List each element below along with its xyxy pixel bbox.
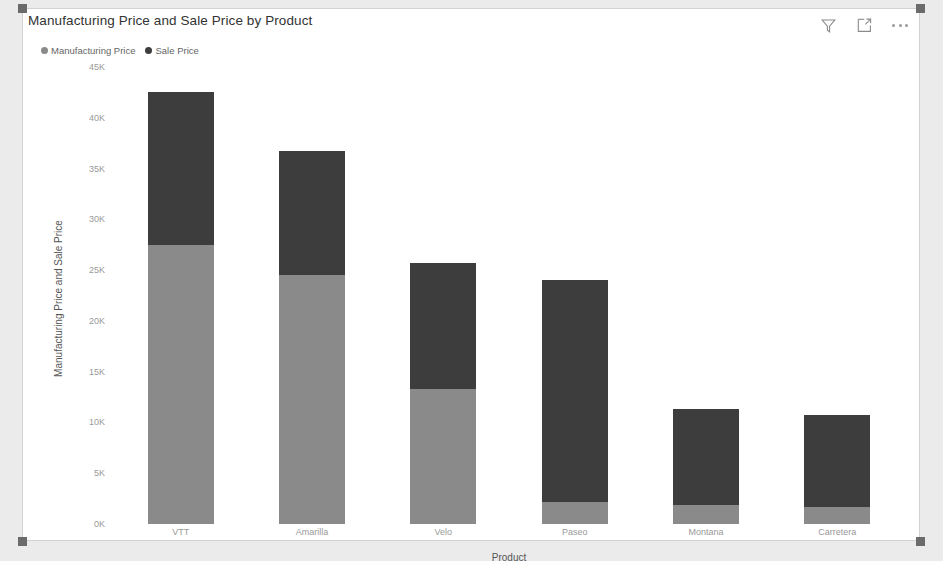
visual-title: Manufacturing Price and Sale Price by Pr… (28, 13, 312, 28)
bar-slot (772, 67, 903, 524)
x-axis-tick-label: Montana (688, 527, 723, 537)
bar-segment[interactable] (279, 151, 345, 275)
y-axis-tick-label: 30K (89, 214, 105, 224)
legend-swatch-manufacturing-price (41, 47, 48, 54)
legend-label-manufacturing-price: Manufacturing Price (51, 45, 135, 56)
legend-label-sale-price: Sale Price (155, 45, 198, 56)
column-montana[interactable] (673, 409, 739, 524)
column-vtt[interactable] (148, 92, 214, 524)
chart-legend: Manufacturing Price Sale Price (41, 45, 199, 56)
more-options-icon[interactable] (889, 14, 911, 36)
bar-segment[interactable] (673, 505, 739, 524)
legend-item-manufacturing-price[interactable]: Manufacturing Price (41, 45, 135, 56)
bar-segment[interactable] (410, 263, 476, 389)
y-axis-tick-label: 25K (89, 265, 105, 275)
stacked-column-chart-visual[interactable]: Manufacturing Price and Sale Price by Pr… (22, 8, 920, 541)
x-axis-tick-label: Paseo (562, 527, 588, 537)
resize-handle-top-right[interactable] (916, 4, 925, 13)
bar-segment[interactable] (410, 389, 476, 524)
column-carretera[interactable] (804, 415, 870, 524)
y-axis-tick-label: 20K (89, 316, 105, 326)
bar-segment[interactable] (542, 280, 608, 501)
resize-handle-top-left[interactable] (18, 4, 27, 13)
y-axis-tick-label: 15K (89, 367, 105, 377)
column-amarilla[interactable] (279, 151, 345, 524)
column-velo[interactable] (410, 263, 476, 524)
bar-slot (509, 67, 640, 524)
resize-handle-bottom-left[interactable] (18, 537, 27, 546)
bars-container (115, 67, 903, 524)
focus-mode-icon[interactable] (853, 14, 875, 36)
x-axis-tick-label: Amarilla (296, 527, 329, 537)
x-axis-tick-label: Carretera (818, 527, 856, 537)
y-axis-tick-label: 40K (89, 113, 105, 123)
x-axis-tick-label: Velo (435, 527, 453, 537)
y-axis-tick-label: 35K (89, 164, 105, 174)
x-axis-ticks: VTTAmarillaVeloPaseoMontanaCarretera (115, 527, 903, 547)
filter-icon[interactable] (817, 14, 839, 36)
legend-swatch-sale-price (145, 47, 152, 54)
resize-handle-bottom-right[interactable] (916, 537, 925, 546)
bar-segment[interactable] (804, 415, 870, 506)
bar-segment[interactable] (673, 409, 739, 504)
column-paseo[interactable] (542, 280, 608, 524)
x-axis-tick-label: VTT (172, 527, 189, 537)
y-axis-tick-label: 5K (94, 468, 105, 478)
bar-slot (246, 67, 377, 524)
y-axis-tick-label: 45K (89, 62, 105, 72)
visual-header-actions (817, 13, 911, 37)
y-axis-tick-label: 10K (89, 417, 105, 427)
bar-slot (640, 67, 771, 524)
report-page-canvas: Manufacturing Price and Sale Price by Pr… (0, 0, 943, 561)
y-axis-ticks: 0K5K10K15K20K25K30K35K40K45K (73, 67, 109, 529)
bar-segment[interactable] (542, 502, 608, 524)
bar-segment[interactable] (804, 507, 870, 524)
y-axis-title-text: Manufacturing Price and Sale Price (53, 220, 64, 377)
bar-segment[interactable] (148, 92, 214, 244)
plot-area: Manufacturing Price and Sale Price 0K5K1… (63, 67, 903, 529)
y-axis-title: Manufacturing Price and Sale Price (51, 67, 65, 529)
legend-item-sale-price[interactable]: Sale Price (145, 45, 198, 56)
bar-slot (115, 67, 246, 524)
visual-header: Manufacturing Price and Sale Price by Pr… (23, 9, 919, 35)
more-options-dots (892, 24, 908, 27)
bar-segment[interactable] (279, 275, 345, 524)
bar-slot (378, 67, 509, 524)
y-axis-tick-label: 0K (94, 519, 105, 529)
bar-segment[interactable] (148, 245, 214, 524)
x-axis-title: Product (115, 552, 903, 561)
